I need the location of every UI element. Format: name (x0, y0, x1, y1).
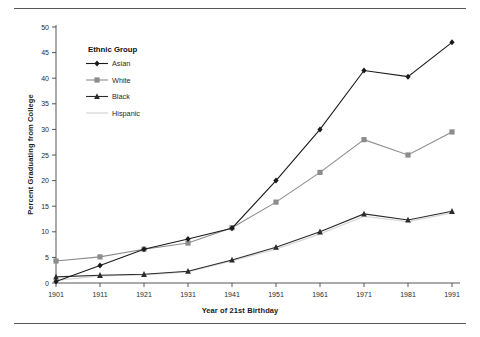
y-axis-ticks: 05101520253035404550 (41, 24, 56, 287)
legend-entry-white: White (86, 76, 131, 85)
data-point-white (317, 170, 322, 175)
chart-page: Percent Graduating from College Year of … (0, 0, 480, 337)
plot-area: 05101520253035404550 1901191119211931194… (0, 10, 480, 322)
x-tick-label: 1911 (92, 291, 107, 298)
legend-label: White (112, 76, 131, 85)
y-tick-label: 45 (41, 49, 49, 56)
x-tick-label: 1961 (312, 291, 328, 298)
y-tick-label: 40 (41, 75, 49, 82)
x-tick-label: 1981 (400, 291, 416, 298)
x-axis-ticks: 1901191119211931194119511961197119811991 (48, 283, 460, 298)
line-chart-figure: Percent Graduating from College Year of … (0, 10, 480, 322)
data-point-white (361, 137, 366, 142)
legend-swatch-marker (94, 77, 99, 82)
x-tick-label: 1901 (48, 291, 64, 298)
series-line-black (56, 211, 452, 277)
data-point-white (273, 200, 278, 205)
series-line-white (56, 132, 452, 261)
data-point-asian (97, 263, 102, 269)
data-point-white (405, 152, 410, 157)
x-tick-label: 1991 (444, 291, 460, 298)
legend-entry-black: Black (86, 92, 130, 101)
y-tick-label: 35 (41, 100, 49, 107)
chart-legend: Ethnic GroupAsianWhiteBlackHispanic (86, 45, 140, 118)
legend-swatch-marker (94, 61, 99, 67)
y-tick-label: 15 (41, 203, 49, 210)
x-tick-label: 1931 (180, 291, 196, 298)
x-tick-label: 1951 (268, 291, 284, 298)
bottom-divider (14, 323, 466, 324)
data-point-black (361, 211, 367, 217)
legend-label: Hispanic (112, 109, 140, 118)
legend-entry-asian: Asian (86, 59, 130, 68)
y-tick-label: 30 (41, 126, 49, 133)
data-point-white (97, 254, 102, 259)
legend-label: Black (112, 92, 130, 101)
x-tick-label: 1921 (136, 291, 152, 298)
top-divider (14, 8, 466, 9)
x-tick-label: 1971 (356, 291, 372, 298)
legend-entry-hispanic: Hispanic (86, 109, 140, 118)
legend-title: Ethnic Group (88, 45, 138, 54)
series-line-hispanic (56, 213, 452, 281)
data-point-white (53, 258, 58, 263)
series-hispanic (56, 213, 452, 281)
y-tick-label: 25 (41, 152, 49, 159)
y-tick-label: 50 (41, 24, 49, 31)
series-white (53, 129, 454, 263)
y-tick-label: 10 (41, 228, 49, 235)
y-tick-label: 5 (45, 254, 49, 261)
y-tick-label: 0 (45, 280, 49, 287)
data-point-white (449, 129, 454, 134)
x-tick-label: 1941 (224, 291, 240, 298)
y-tick-label: 20 (41, 177, 49, 184)
series-black (53, 208, 455, 279)
legend-label: Asian (112, 59, 130, 68)
data-point-black (449, 208, 455, 214)
